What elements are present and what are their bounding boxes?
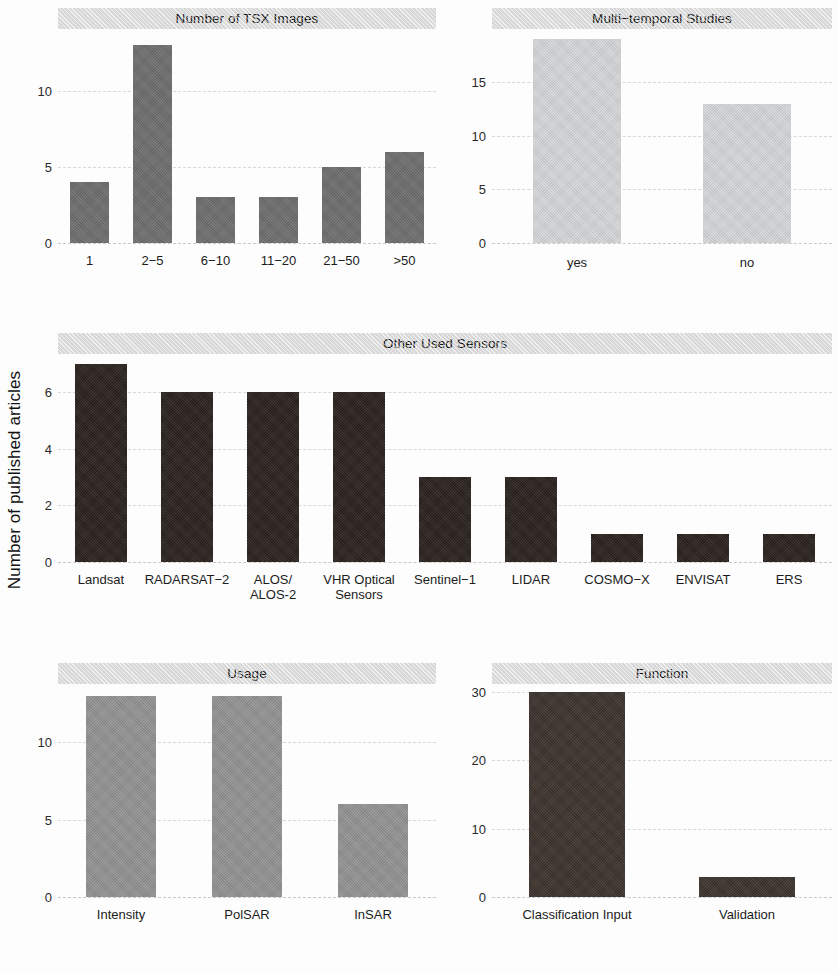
y-tick-label: 2 bbox=[45, 498, 52, 513]
shared-y-axis-label-wrap: Number of published articles bbox=[0, 0, 34, 974]
panel-title-strip-sensors: Other Used Sensors bbox=[58, 333, 832, 354]
x-tick-label: COSMO−X bbox=[573, 572, 661, 587]
y-tick-label: 10 bbox=[472, 821, 486, 836]
x-tick-label: LIDAR bbox=[487, 572, 575, 587]
bar[interactable] bbox=[259, 197, 298, 243]
y-tick-label: 10 bbox=[472, 128, 486, 143]
bar[interactable] bbox=[86, 696, 157, 897]
panel-title-sensors: Other Used Sensors bbox=[383, 336, 507, 351]
plot-area-multitemporal: 051015yesno bbox=[492, 29, 832, 280]
bar[interactable] bbox=[505, 477, 557, 562]
bar[interactable] bbox=[677, 534, 729, 562]
x-tick-label: InSAR bbox=[309, 907, 438, 922]
bar[interactable] bbox=[419, 477, 471, 562]
bar[interactable] bbox=[529, 692, 624, 897]
axes-2: 0246 bbox=[58, 358, 832, 562]
gridline-0 bbox=[58, 897, 436, 898]
panel-title-strip-usage: Usage bbox=[58, 663, 436, 684]
y-tick-label: 0 bbox=[45, 236, 52, 251]
x-tick-label: yes bbox=[490, 255, 663, 270]
gridline-10 bbox=[58, 91, 436, 92]
panel-title-usage: Usage bbox=[227, 666, 267, 681]
gridline-0 bbox=[492, 243, 832, 244]
y-tick-label: 4 bbox=[45, 441, 52, 456]
bar[interactable] bbox=[533, 39, 621, 243]
bar[interactable] bbox=[75, 364, 127, 562]
x-tick-label: ENVISAT bbox=[659, 572, 747, 587]
y-tick-label: 5 bbox=[45, 159, 52, 174]
x-tick-label: VHR Optical Sensors bbox=[315, 572, 403, 602]
gridline-0 bbox=[58, 562, 832, 563]
gridline-0 bbox=[58, 243, 436, 244]
x-tick-label: ALOS/ ALOS-2 bbox=[229, 572, 317, 602]
x-tick-label: no bbox=[660, 255, 833, 270]
x-tick-label: >50 bbox=[372, 253, 436, 268]
figure-root: Number of published articles Number of T… bbox=[0, 0, 838, 974]
y-tick-label: 5 bbox=[479, 182, 486, 197]
panel-other-used-sensors: Other Used Sensors 0246LandsatRADARSAT−2… bbox=[58, 333, 832, 599]
y-tick-label: 10 bbox=[38, 83, 52, 98]
axes-1: 051015 bbox=[492, 33, 832, 243]
y-tick-label: 30 bbox=[472, 685, 486, 700]
panel-multi-temporal-studies: Multi−temporal Studies 051015yesno bbox=[492, 8, 832, 280]
bar[interactable] bbox=[322, 167, 361, 243]
x-tick-label: Classification Input bbox=[490, 907, 663, 922]
bar[interactable] bbox=[763, 534, 815, 562]
x-tick-label: Sentinel−1 bbox=[401, 572, 489, 587]
bar[interactable] bbox=[591, 534, 643, 562]
panel-title-strip-function: Function bbox=[492, 663, 832, 684]
y-tick-label: 0 bbox=[45, 555, 52, 570]
plot-area-function: 0102030Classification InputValidation bbox=[492, 684, 832, 934]
panel-number-of-tsx-images: Number of TSX Images 051012−56−1011−2021… bbox=[58, 8, 436, 280]
bar[interactable] bbox=[70, 182, 109, 243]
bar[interactable] bbox=[699, 877, 794, 897]
plot-area-usage: 0510IntensityPolSARInSAR bbox=[58, 684, 436, 934]
panel-title-multitemporal: Multi−temporal Studies bbox=[592, 11, 732, 26]
panel-usage: Usage 0510IntensityPolSARInSAR bbox=[58, 663, 436, 934]
panel-title-strip-multitemporal: Multi−temporal Studies bbox=[492, 8, 832, 29]
x-tick-label: 1 bbox=[57, 253, 121, 268]
x-tick-label: RADARSAT−2 bbox=[143, 572, 231, 587]
bar[interactable] bbox=[333, 392, 385, 562]
y-tick-label: 6 bbox=[45, 385, 52, 400]
plot-area-sensors: 0246LandsatRADARSAT−2ALOS/ ALOS-2VHR Opt… bbox=[58, 354, 832, 599]
y-tick-label: 5 bbox=[45, 812, 52, 827]
panel-title-strip-tsx: Number of TSX Images bbox=[58, 8, 436, 29]
axes-0: 0510 bbox=[58, 33, 436, 243]
axes-4: 0102030 bbox=[492, 688, 832, 897]
gridline-5 bbox=[58, 167, 436, 168]
x-tick-label: PolSAR bbox=[183, 907, 312, 922]
x-tick-label: Landsat bbox=[57, 572, 145, 587]
x-tick-label: ERS bbox=[745, 572, 833, 587]
panel-function: Function 0102030Classification InputVali… bbox=[492, 663, 832, 934]
bar[interactable] bbox=[385, 152, 424, 243]
bar[interactable] bbox=[133, 45, 172, 243]
bar[interactable] bbox=[196, 197, 235, 243]
y-tick-label: 0 bbox=[45, 890, 52, 905]
panel-title-tsx: Number of TSX Images bbox=[176, 11, 319, 26]
plot-area-tsx: 051012−56−1011−2021−50>50 bbox=[58, 29, 436, 280]
x-tick-label: 6−10 bbox=[183, 253, 247, 268]
bar[interactable] bbox=[338, 804, 409, 897]
axes-3: 0510 bbox=[58, 688, 436, 897]
y-tick-label: 0 bbox=[479, 890, 486, 905]
bar[interactable] bbox=[247, 392, 299, 562]
x-tick-label: 11−20 bbox=[246, 253, 310, 268]
panel-title-function: Function bbox=[636, 666, 689, 681]
shared-y-axis-label: Number of published articles bbox=[5, 310, 25, 650]
x-tick-label: 21−50 bbox=[309, 253, 373, 268]
x-tick-label: 2−5 bbox=[120, 253, 184, 268]
y-tick-label: 20 bbox=[472, 753, 486, 768]
bar[interactable] bbox=[212, 696, 283, 897]
y-tick-label: 15 bbox=[472, 75, 486, 90]
x-tick-label: Validation bbox=[660, 907, 833, 922]
bar[interactable] bbox=[161, 392, 213, 562]
y-tick-label: 10 bbox=[38, 735, 52, 750]
bar[interactable] bbox=[703, 104, 791, 243]
x-tick-label: Intensity bbox=[57, 907, 186, 922]
gridline-0 bbox=[492, 897, 832, 898]
y-tick-label: 0 bbox=[479, 236, 486, 251]
